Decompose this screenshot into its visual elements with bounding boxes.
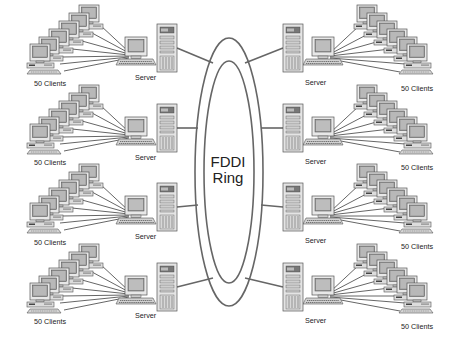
ring-label: FDDI Ring: [203, 154, 253, 186]
left-segment-3: [27, 164, 177, 233]
left-3-clients-label: 50 Clients: [34, 238, 66, 247]
right-3-server-label: Server: [305, 236, 326, 245]
right-segment-2: [283, 85, 433, 154]
right-segment-4: [283, 244, 433, 313]
right-1-server-label: Server: [305, 78, 326, 87]
left-1-server-label: Server: [135, 73, 156, 82]
right-1-clients-label: 50 Clients: [401, 84, 433, 93]
right-segment-1: [283, 5, 433, 74]
left-4-server-label: Server: [135, 311, 156, 320]
left-2-clients-label: 50 Clients: [34, 158, 66, 167]
left-segment-4: [27, 244, 177, 313]
left-1-clients-label: 50 Clients: [34, 79, 66, 88]
left-4-clients-label: 50 Clients: [34, 317, 66, 326]
ring-label-line1: FDDI: [203, 154, 253, 170]
left-2-server-label: Server: [135, 153, 156, 162]
right-2-clients-label: 50 Clients: [401, 163, 433, 172]
left-segment-2: [27, 85, 177, 154]
right-4-clients-label: 50 Clients: [401, 322, 433, 331]
right-2-server-label: Server: [305, 157, 326, 166]
right-3-clients-label: 50 Clients: [401, 242, 433, 251]
ring-label-line2: Ring: [203, 170, 253, 186]
left-3-server-label: Server: [135, 232, 156, 241]
right-segment-3: [283, 164, 433, 233]
left-segment-1: [27, 5, 177, 74]
right-4-server-label: Server: [305, 316, 326, 325]
